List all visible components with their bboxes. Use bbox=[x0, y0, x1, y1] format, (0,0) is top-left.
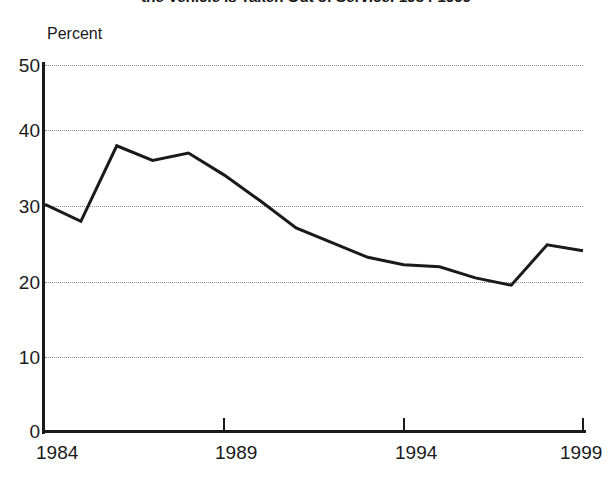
series-line-chart bbox=[0, 0, 612, 489]
series-line-percent bbox=[45, 146, 583, 285]
